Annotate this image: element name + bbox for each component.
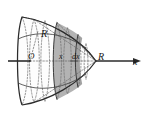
label-x-axis: x <box>133 57 137 67</box>
label-slice-position: x <box>59 53 63 61</box>
label-origin: O <box>28 52 35 61</box>
label-slice-thickness: dx <box>72 53 80 61</box>
figure-container: O R x dx R x <box>0 0 147 113</box>
label-vertex-radius: R <box>98 52 104 62</box>
label-radius-top: R <box>41 29 47 39</box>
